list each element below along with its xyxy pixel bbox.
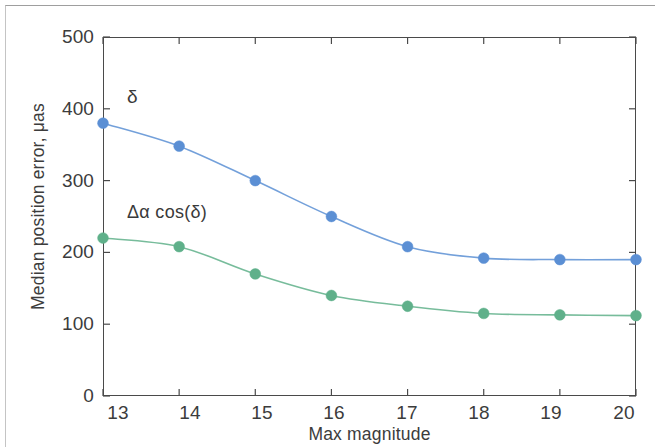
data-point xyxy=(174,141,185,152)
data-point xyxy=(554,309,565,320)
data-point xyxy=(98,233,109,244)
data-point xyxy=(250,175,261,186)
data-point xyxy=(98,118,109,129)
chart-figure: 500 400 300 200 100 0 13 14 15 16 17 18 … xyxy=(0,0,655,447)
data-point xyxy=(478,253,489,264)
data-point xyxy=(402,241,413,252)
data-point xyxy=(631,254,642,265)
data-point xyxy=(326,290,337,301)
series-alpha-cos-delta xyxy=(98,233,642,321)
data-point xyxy=(554,254,565,265)
data-point xyxy=(402,301,413,312)
data-series xyxy=(98,118,642,321)
data-point xyxy=(631,310,642,321)
data-point xyxy=(478,308,489,319)
axis-ticks xyxy=(103,37,636,396)
data-point xyxy=(174,241,185,252)
plot-data-layer xyxy=(0,0,655,447)
data-point xyxy=(326,211,337,222)
data-point xyxy=(250,269,261,280)
